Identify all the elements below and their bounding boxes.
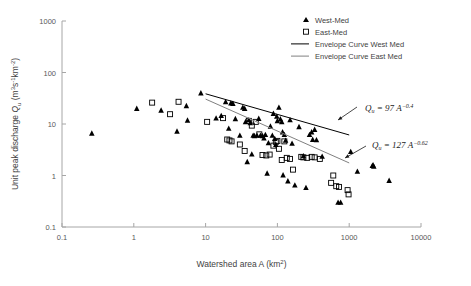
data-point-west-med (198, 90, 204, 95)
data-point-east-med (205, 119, 210, 124)
data-point-west-med (244, 159, 250, 164)
data-point-west-med (312, 127, 318, 132)
x-tick-label: 10 (201, 233, 209, 242)
data-point-west-med (283, 137, 289, 142)
y-tick-label: 1 (52, 172, 56, 181)
data-point-west-med (174, 128, 180, 133)
data-point-west-med (185, 117, 191, 122)
data-point-east-med (279, 157, 284, 162)
data-point-west-med (263, 132, 269, 137)
y-tick-label: 100 (43, 69, 56, 78)
legend-marker-filled-triangle-icon (303, 17, 309, 22)
scatter-plot-svg: 0.11101001000100000.11101001000Watershed… (0, 0, 471, 286)
data-point-east-med (291, 167, 296, 172)
data-point-east-med (331, 173, 336, 178)
legend-item-east-med[interactable]: East-Med (304, 28, 348, 37)
legend-item-envelope-curve-east-med[interactable]: Envelope Curve East Med (291, 52, 402, 61)
data-point-west-med (386, 177, 392, 182)
data-point-east-med (150, 100, 155, 105)
y-tick-label: 10 (48, 120, 56, 129)
chart-figure: 0.11101001000100000.11101001000Watershed… (0, 0, 471, 286)
data-point-west-med (89, 130, 95, 135)
data-point-east-med (276, 146, 281, 151)
legend-label: West-Med (315, 16, 349, 25)
data-point-west-med (296, 124, 302, 129)
y-tick-label: 0.1 (46, 223, 56, 232)
x-axis-title: Watershed area A (km2) (197, 259, 287, 269)
data-point-west-med (276, 104, 282, 109)
data-point-west-med (289, 140, 295, 145)
data-point-east-med (168, 112, 173, 117)
data-point-east-med (237, 142, 242, 147)
series-east-med (150, 99, 351, 197)
data-point-west-med (256, 115, 262, 120)
annotation-equation-west: Qu = 97 A−0.4 (365, 103, 413, 115)
y-tick-label: 1000 (39, 17, 56, 26)
data-point-west-med (314, 137, 320, 142)
legend-label: Envelope Curve West Med (315, 40, 404, 49)
data-point-east-med (176, 99, 181, 104)
data-point-east-med (242, 148, 247, 153)
data-point-west-med (264, 170, 270, 175)
x-tick-label: 100 (271, 233, 284, 242)
data-point-west-med (266, 140, 272, 145)
legend-marker-open-square-icon (304, 29, 309, 34)
x-tick-label: 1 (132, 233, 136, 242)
data-point-west-med (158, 107, 164, 112)
legend-label: East-Med (315, 28, 347, 37)
data-point-west-med (280, 172, 286, 177)
data-point-west-med (292, 182, 298, 187)
data-point-west-med (237, 132, 243, 137)
x-tick-label: 0.1 (57, 233, 67, 242)
annotation-arrowhead-west (338, 116, 342, 120)
annotation-equation-east: Qu = 127 A−0.62 (372, 140, 428, 152)
data-point-west-med (285, 178, 291, 183)
data-point-east-med (329, 180, 334, 185)
data-point-west-med (226, 125, 232, 130)
data-point-west-med (303, 185, 309, 190)
legend-item-west-med[interactable]: West-Med (303, 16, 349, 25)
y-axis-title: Unit peak discharge Qu (m3s-1km-2) (10, 58, 22, 190)
data-point-west-med (134, 105, 140, 110)
data-point-west-med (355, 168, 361, 173)
data-point-west-med (184, 103, 190, 108)
x-tick-label: 1000 (341, 233, 358, 242)
legend-item-envelope-curve-west-med[interactable]: Envelope Curve West Med (291, 40, 404, 49)
data-point-west-med (249, 151, 255, 156)
legend-label: Envelope Curve East Med (315, 52, 402, 61)
data-point-west-med (213, 115, 219, 120)
data-point-west-med (233, 116, 239, 121)
x-tick-label: 10000 (411, 233, 432, 242)
